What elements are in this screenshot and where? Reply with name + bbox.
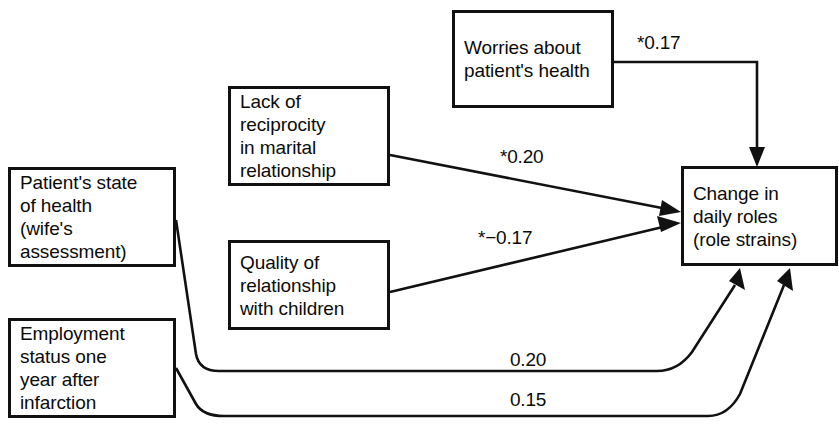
node-employment-status-label: Employment status one year after infarct… bbox=[11, 322, 130, 414]
edge-worries-to-change bbox=[614, 62, 765, 167]
node-employment-status[interactable]: Employment status one year after infarct… bbox=[8, 318, 176, 418]
node-quality-of-relationship-label: Quality of relationship with children bbox=[231, 251, 349, 320]
edge-quality-to-change bbox=[390, 216, 681, 292]
edge-label-quality-to-change: *−0.17 bbox=[478, 228, 532, 248]
node-worries-about-health[interactable]: Worries about patient's health bbox=[452, 10, 614, 108]
edge-label-reciprocity-to-change: *0.20 bbox=[500, 147, 543, 167]
node-patient-state-of-health[interactable]: Patient's state of health (wife's assess… bbox=[8, 167, 176, 267]
edge-patient-state-to-change-arrowhead bbox=[729, 268, 745, 290]
edge-worries-to-change-arrowhead bbox=[749, 147, 765, 167]
edge-label-worries-to-change: *0.17 bbox=[637, 33, 680, 53]
node-patient-state-of-health-label: Patient's state of health (wife's assess… bbox=[11, 171, 142, 263]
node-change-in-daily-roles[interactable]: Change in daily roles (role strains) bbox=[681, 166, 838, 266]
edge-worries-to-change-line bbox=[614, 62, 757, 157]
node-quality-of-relationship[interactable]: Quality of relationship with children bbox=[228, 240, 390, 330]
path-diagram: Patient's state of health (wife's assess… bbox=[0, 0, 839, 431]
edge-quality-to-change-arrowhead bbox=[657, 216, 681, 232]
edge-reciprocity-to-change-arrowhead bbox=[659, 200, 681, 216]
node-change-in-daily-roles-label: Change in daily roles (role strains) bbox=[684, 182, 802, 251]
node-lack-of-reciprocity-label: Lack of reciprocity in marital relations… bbox=[231, 90, 341, 182]
edge-label-employment-to-change: 0.15 bbox=[510, 390, 546, 410]
edge-label-patient-state-to-change: 0.20 bbox=[510, 350, 546, 370]
node-lack-of-reciprocity[interactable]: Lack of reciprocity in marital relations… bbox=[228, 86, 390, 186]
edge-employment-to-change-arrowhead bbox=[777, 268, 793, 291]
node-worries-about-health-label: Worries about patient's health bbox=[455, 36, 595, 82]
